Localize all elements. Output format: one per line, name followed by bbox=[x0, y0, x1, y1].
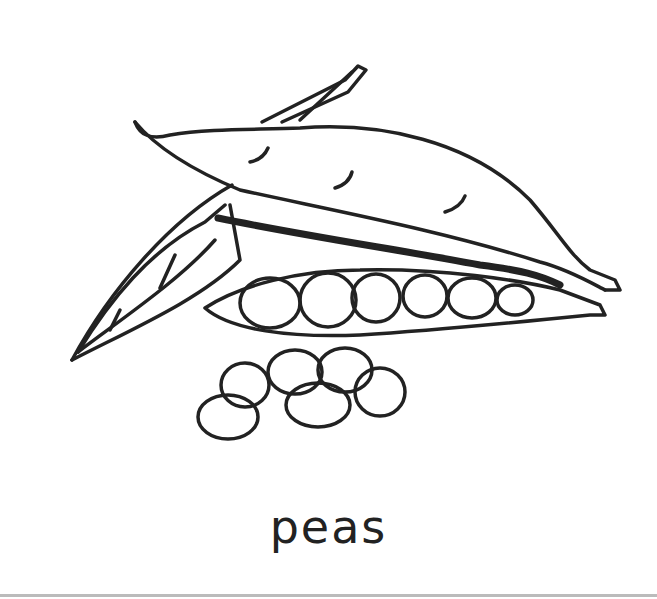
caption-label: peas bbox=[0, 500, 657, 554]
pod-pea bbox=[240, 278, 300, 328]
pod-pea bbox=[448, 278, 496, 318]
left-pod bbox=[72, 185, 240, 360]
bottom-border bbox=[0, 594, 657, 597]
loose-peas bbox=[198, 348, 405, 439]
pod-pea bbox=[403, 275, 447, 317]
pod-pea bbox=[300, 273, 356, 327]
pod-pea bbox=[352, 274, 400, 322]
pod-pea bbox=[497, 285, 533, 315]
back-pod-stem bbox=[262, 66, 366, 122]
top-pod bbox=[135, 122, 620, 290]
